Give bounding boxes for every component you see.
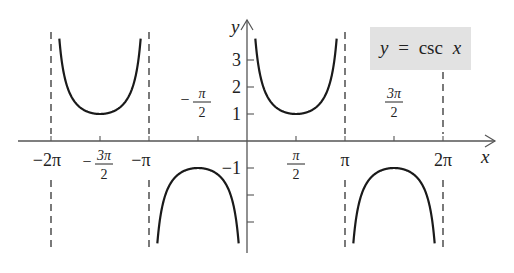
- csc-plot: −2π−3π2−π−π2π2π3π22π321−1 y = csc x y x: [0, 0, 514, 273]
- x-tick-label-sign: −: [180, 91, 189, 108]
- x-tick-label: −2π: [33, 150, 61, 170]
- x-axis-label: x: [480, 146, 490, 167]
- x-tick-label-sign: −: [82, 153, 91, 170]
- legend-x: x: [452, 37, 462, 58]
- x-tick-label: 2π: [434, 150, 452, 170]
- x-tick-label-den: 2: [391, 105, 398, 120]
- y-axis-label: y: [229, 16, 240, 37]
- x-tick-label-num: π: [198, 86, 206, 101]
- csc-branch: [157, 168, 238, 243]
- csc-branch: [59, 39, 140, 114]
- legend-equals: =: [398, 37, 409, 58]
- x-tick-label: −π: [131, 150, 150, 170]
- y-tick-label: 2: [232, 77, 241, 97]
- y-tick-label: −1: [222, 158, 241, 178]
- y-tick-label: 3: [232, 50, 241, 70]
- csc-branch: [255, 39, 336, 114]
- x-tick-label-num: 3π: [386, 86, 402, 101]
- csc-branch: [353, 168, 434, 243]
- x-tick-label-num: π: [292, 148, 300, 163]
- legend-y: y: [378, 37, 389, 58]
- x-tick-label-den: 2: [293, 167, 300, 182]
- x-tick-label-num: 3π: [96, 148, 112, 163]
- legend-fn: csc: [419, 37, 443, 58]
- function-label-box: y = csc x: [370, 27, 471, 70]
- x-tick-label-den: 2: [100, 167, 107, 182]
- x-tick-label-den: 2: [198, 105, 205, 120]
- y-tick-label: 1: [232, 104, 241, 124]
- x-tick-label: π: [340, 150, 349, 170]
